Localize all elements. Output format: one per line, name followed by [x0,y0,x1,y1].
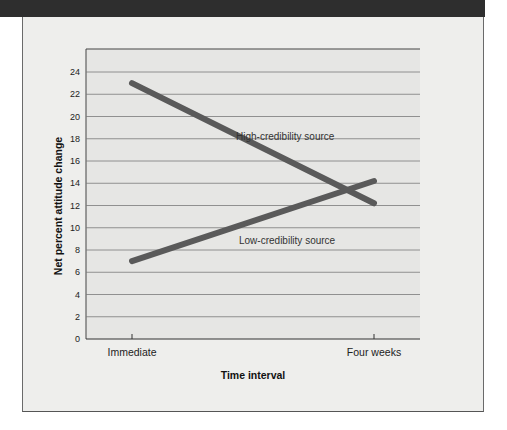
y-tick-label: 16 [70,156,80,166]
y-tick-label: 10 [70,223,80,233]
series-label-low-credibility: Low-credibility source [239,235,336,246]
y-tick-label: 6 [75,267,80,277]
y-tick-label: 12 [70,201,80,211]
y-tick-label: 24 [70,67,80,77]
y-axis-title: Net percent attitude change [52,137,64,275]
y-tick-label: 0 [75,334,80,344]
y-axis-ticks: 024681012141618202224 [70,67,80,344]
y-tick-label: 8 [75,245,80,255]
x-axis-title: Time interval [221,369,286,381]
y-tick-label: 18 [70,134,80,144]
y-tick-label: 2 [75,312,80,322]
x-tick-label: Four weeks [347,346,401,358]
y-tick-label: 14 [70,178,80,188]
y-tick-label: 4 [75,290,80,300]
series-label-high-credibility: High-credibility source [236,131,335,142]
x-tick-label: Immediate [107,346,156,358]
y-tick-label: 20 [70,112,80,122]
line-chart: 024681012141618202224 ImmediateFour week… [0,0,507,430]
y-tick-label: 22 [70,89,80,99]
plot-area [86,49,420,339]
